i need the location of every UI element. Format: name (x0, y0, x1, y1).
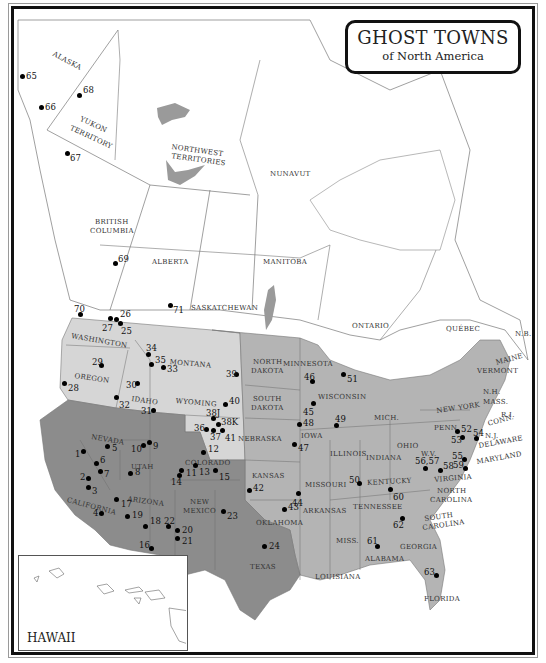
ghost-town-marker (213, 468, 218, 473)
ghost-town-marker (149, 362, 154, 367)
ghost-town-number: 39 (226, 369, 237, 379)
region-label: INDIANA (366, 454, 402, 462)
ghost-town-number: 28 (68, 383, 79, 393)
ghost-town-marker (296, 491, 301, 496)
ghost-town-number: 30 (126, 380, 137, 390)
ghost-town-number: 52 (461, 424, 472, 434)
ghost-town-marker (311, 401, 316, 406)
ghost-town-number: 9 (153, 441, 158, 451)
ghost-town-number: 60 (393, 492, 404, 502)
ghost-town-marker (193, 463, 198, 468)
ghost-town-number: 37 (210, 432, 221, 442)
region-label: CAROLINA (430, 496, 472, 504)
ghost-town-number: 35 (155, 355, 166, 365)
region-label: TENNESSEE (353, 503, 403, 511)
ghost-town-number: 10 (131, 444, 142, 454)
ghost-town-marker (114, 395, 119, 400)
ghost-town-number: 54 (473, 428, 484, 438)
ghost-town-number: 8 (135, 467, 140, 477)
ghost-town-number: 21 (182, 536, 193, 546)
ghost-town-marker (108, 316, 113, 321)
ghost-town-marker (220, 428, 225, 433)
region-label: ILLINOIS (330, 450, 367, 458)
ghost-town-number: 66 (45, 102, 56, 112)
region-label: ALBERTA (152, 258, 189, 266)
ghost-town-number: 4 (93, 508, 98, 518)
region-label: N.B. (515, 330, 531, 338)
ghost-town-marker (175, 536, 180, 541)
region-label: QUÉBEC (446, 325, 480, 333)
ghost-town-number: 7 (104, 469, 109, 479)
ghost-town-number: 17 (121, 499, 132, 509)
ghost-town-number: 61 (367, 536, 378, 546)
ghost-town-marker (297, 422, 302, 427)
ghost-town-number: 48 (303, 418, 314, 428)
ghost-town-marker (223, 402, 228, 407)
ghost-town-number: 62 (393, 520, 404, 530)
ghost-town-number: 23 (227, 511, 238, 521)
ghost-town-number: 20 (182, 525, 193, 535)
ghost-town-number: 13 (199, 467, 210, 477)
map-title-cartouche: GHOST TOWNS of North America (345, 20, 521, 74)
ghost-town-number: 44 (292, 498, 303, 508)
region-label: OKLAHOMA (256, 519, 303, 527)
region-label: NORTH (437, 487, 466, 495)
ghost-town-number: 32 (119, 400, 130, 410)
region-label: MICH. (374, 414, 399, 422)
ghost-town-marker (216, 422, 221, 427)
region-label: OHIO (397, 442, 419, 450)
ghost-town-marker (455, 429, 460, 434)
ghost-town-number: 24 (269, 541, 280, 551)
ghost-town-number: 68 (83, 85, 94, 95)
region-label: TEXAS (250, 563, 276, 571)
ghost-town-number: 5 (112, 443, 117, 453)
ghost-town-number: 69 (118, 254, 129, 264)
ghost-town-marker (105, 444, 110, 449)
ghost-town-number: 34 (146, 343, 157, 353)
region-label: BRITISH (95, 218, 129, 226)
ghost-town-number: 36 (194, 423, 205, 433)
ghost-town-number: 2 (80, 472, 85, 482)
region-label: NUNAVUT (270, 170, 311, 178)
ghost-town-marker (175, 528, 180, 533)
region-label: VERMONT (477, 367, 518, 375)
ghost-town-number: 46 (304, 372, 315, 382)
region-label: MASS. (483, 398, 508, 406)
region-label: NEBRASKA (238, 435, 282, 443)
region-label: DAKOTA (251, 404, 284, 412)
ghost-town-marker (388, 487, 393, 492)
ghost-town-number: 71 (173, 305, 184, 315)
ghost-town-number: 14 (171, 477, 182, 487)
ghost-town-marker (99, 511, 104, 516)
ghost-town-number: 42 (253, 483, 264, 493)
region-label: COLUMBIA (90, 227, 134, 235)
ghost-town-marker (114, 317, 119, 322)
region-label: MISSOURI (305, 481, 346, 489)
region-label: WISCONSIN (318, 393, 366, 401)
ghost-town-marker (86, 476, 91, 481)
ghost-town-marker (86, 485, 91, 490)
ghost-town-number: 59 (453, 460, 464, 470)
hawaii-label: HAWAII (27, 631, 76, 645)
ghost-town-number: 12 (208, 444, 219, 454)
ghost-town-number: 11 (186, 468, 197, 478)
ghost-town-marker (179, 468, 184, 473)
ghost-town-number: 38J (206, 408, 220, 418)
region-label: SASKATCHEWAN (191, 304, 258, 312)
region-label: MISS. (336, 537, 359, 545)
ghost-town-marker (247, 488, 252, 493)
map-subtitle: of North America (348, 49, 518, 63)
region-label: NORTH (253, 358, 282, 366)
region-label: MINNESOTA (283, 360, 333, 368)
ghost-town-marker (147, 440, 152, 445)
region-label: ALABAMA (365, 555, 404, 563)
ghost-town-number: 70 (74, 304, 85, 314)
ghost-town-marker (39, 105, 44, 110)
ghost-town-number: 27 (102, 323, 113, 333)
ghost-town-marker (282, 507, 287, 512)
region-label: GEORGIA (400, 543, 437, 551)
ghost-town-marker (65, 151, 70, 156)
ghost-town-number: 47 (298, 443, 309, 453)
ghost-town-number: 56,57 (415, 456, 439, 466)
ghost-town-number: 53 (451, 435, 462, 445)
